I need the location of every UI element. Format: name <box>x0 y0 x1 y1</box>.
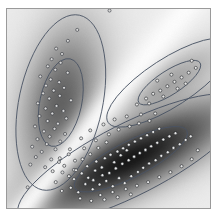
data-point <box>103 157 106 160</box>
data-point <box>111 191 114 194</box>
data-point <box>39 75 42 78</box>
data-point <box>138 152 141 155</box>
data-point <box>147 181 150 184</box>
data-point <box>122 147 125 150</box>
data-point <box>184 82 187 85</box>
data-point <box>158 127 161 130</box>
data-point <box>92 179 95 182</box>
data-point <box>145 97 148 100</box>
data-point <box>84 183 87 186</box>
data-point <box>156 141 159 144</box>
data-point <box>89 153 92 156</box>
data-point <box>87 176 90 179</box>
data-point <box>121 162 124 165</box>
data-point <box>133 155 136 158</box>
data-point <box>95 160 98 163</box>
data-point <box>160 154 163 157</box>
data-point <box>148 102 151 105</box>
data-point-stray-point-top <box>108 9 111 12</box>
data-point <box>58 81 61 84</box>
data-point <box>159 89 162 92</box>
data-point <box>98 183 101 186</box>
data-point <box>105 141 108 144</box>
contours-and-points-overlay <box>7 9 210 208</box>
data-point <box>129 193 132 196</box>
data-point <box>190 158 193 161</box>
contour-ellipses <box>7 9 210 208</box>
data-point <box>166 151 169 154</box>
data-point <box>29 163 32 166</box>
data-point <box>127 143 130 146</box>
data-point <box>58 157 61 160</box>
data-point <box>101 174 104 177</box>
data-point <box>52 89 55 92</box>
contour-ellipse-c1-sigma2 <box>7 9 120 199</box>
contour-ellipse-c2-sigma1 <box>67 115 195 204</box>
data-point <box>58 94 61 97</box>
data-point <box>66 39 69 42</box>
data-point <box>119 154 122 157</box>
data-point <box>148 119 151 122</box>
data-point <box>158 176 161 179</box>
data-point <box>123 182 126 185</box>
data-point <box>108 171 111 174</box>
data-point <box>144 148 147 151</box>
data-point <box>77 191 80 194</box>
data-point <box>69 186 72 189</box>
data-point <box>162 138 165 141</box>
data-point <box>59 61 62 64</box>
data-point <box>125 149 128 152</box>
data-point <box>60 52 63 55</box>
data-point <box>156 79 159 82</box>
data-point <box>107 133 110 136</box>
data-point <box>44 166 47 169</box>
data-point <box>65 117 68 120</box>
data-point <box>99 194 102 197</box>
data-point <box>116 196 119 199</box>
data-point <box>51 112 54 115</box>
data-point <box>59 140 62 143</box>
data-point <box>69 99 72 102</box>
data-point <box>162 95 165 98</box>
data-point <box>31 145 34 148</box>
data-point <box>184 138 187 141</box>
data-point <box>64 132 67 135</box>
data-point <box>139 113 142 116</box>
data-point <box>86 165 89 168</box>
data-point <box>34 156 37 159</box>
data-point <box>76 28 79 31</box>
data-point <box>66 71 69 74</box>
data-point <box>50 58 53 61</box>
data-point <box>187 71 190 74</box>
data-point <box>170 73 173 76</box>
data-point <box>49 78 52 81</box>
data-point <box>67 153 70 156</box>
data-point <box>176 87 179 90</box>
data-point <box>54 148 57 151</box>
data-point <box>36 102 39 105</box>
data-point <box>72 178 75 181</box>
data-point <box>172 146 175 149</box>
data-point <box>100 166 103 169</box>
data-point <box>42 92 45 95</box>
data-point <box>168 135 171 138</box>
data-point <box>148 162 151 165</box>
data-point <box>194 66 197 69</box>
data-point <box>150 145 153 148</box>
data-point <box>94 169 97 172</box>
data-point <box>118 177 121 180</box>
data-point <box>45 143 48 146</box>
data-point <box>55 104 58 107</box>
data-point <box>73 159 76 162</box>
data-point <box>79 197 82 200</box>
data-point <box>63 86 66 89</box>
data-point <box>130 175 133 178</box>
data-point <box>109 153 112 156</box>
data-point <box>54 68 57 71</box>
data-point <box>166 85 169 88</box>
data-point <box>102 123 105 126</box>
density-scatter-figure <box>0 0 219 220</box>
data-point <box>54 181 57 184</box>
data-point <box>117 128 120 131</box>
data-point <box>113 161 116 164</box>
